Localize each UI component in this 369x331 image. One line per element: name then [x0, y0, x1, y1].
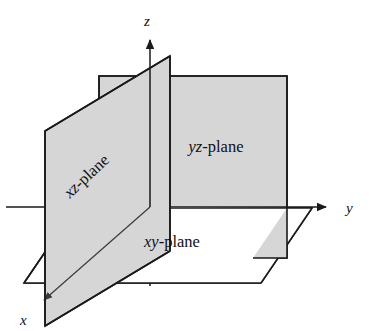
figure-canvas: x y z yz-plane xz-plane xy-plane [0, 0, 369, 331]
z-axis-label: z [143, 13, 150, 29]
x-axis-label: x [19, 312, 27, 328]
y-axis-label: y [344, 200, 353, 216]
yz-plane-label-suffix: -plane [202, 137, 243, 156]
xy-plane-label-vars: xy [143, 232, 159, 251]
coordinate-planes-figure: x y z yz-plane xz-plane xy-plane [0, 0, 369, 331]
xy-plane-label: xy-plane [143, 232, 200, 251]
yz-plane-label-vars: yz [187, 137, 203, 156]
yz-plane-label: yz-plane [187, 137, 244, 156]
xy-plane-label-suffix: -plane [159, 232, 200, 251]
